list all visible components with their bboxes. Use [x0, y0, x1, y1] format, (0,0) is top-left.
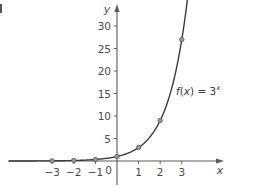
origin-label: 0 — [105, 164, 112, 176]
data-point-marker — [158, 118, 162, 122]
x-tick-label: −3 — [44, 166, 59, 178]
data-point-marker — [93, 157, 97, 161]
y-tick-label: 25 — [98, 43, 111, 55]
x-tick-label: −1 — [88, 166, 103, 178]
y-tick-label: 5 — [104, 133, 111, 145]
x-tick-label: −2 — [66, 166, 81, 178]
y-axis-label: y — [103, 3, 111, 16]
data-point-marker — [180, 37, 184, 41]
y-tick-label: 30 — [98, 20, 111, 32]
x-tick-label: 3 — [178, 166, 185, 178]
x-tick-label: 2 — [157, 166, 164, 178]
data-point-marker — [72, 158, 76, 162]
function-exponent: x — [215, 84, 221, 92]
data-point-marker — [50, 159, 54, 163]
y-axis-arrow-icon — [114, 4, 119, 12]
exponential-function-chart: −3−2−1123510152025300xy f(x) = 3x — [0, 0, 254, 187]
x-tick-label: 1 — [135, 166, 142, 178]
data-point-marker — [115, 154, 119, 158]
y-tick-label: 15 — [98, 88, 111, 100]
x-axis-label: x — [216, 164, 224, 177]
function-label: f(x) = 3x — [176, 84, 221, 97]
function-body: = 3 — [194, 85, 216, 97]
data-point-marker — [136, 145, 140, 149]
y-tick-label: 10 — [98, 110, 111, 122]
y-tick-label: 20 — [98, 65, 111, 77]
x-axis-arrow-icon — [216, 158, 224, 163]
